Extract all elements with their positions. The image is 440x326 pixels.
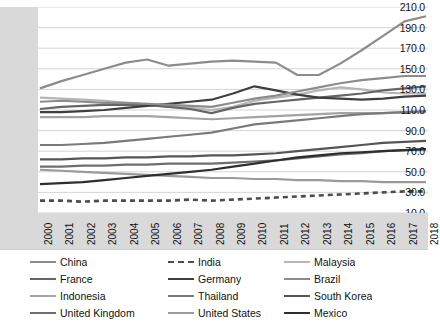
legend-line-swatch <box>168 261 194 263</box>
plot-canvas <box>38 7 428 213</box>
legend-line-swatch <box>284 312 310 314</box>
x-tick-label-host: 2000200120022003200420052006200720082009… <box>38 213 428 249</box>
y-tick-label: 110.0 <box>401 105 426 116</box>
legend-line-swatch <box>30 278 56 280</box>
legend-item-brazil[interactable]: Brazil <box>284 273 418 285</box>
y-tick-label: 50.0 <box>405 167 425 178</box>
legend-item-thailand[interactable]: Thailand <box>168 290 284 302</box>
legend-line-swatch <box>284 295 310 297</box>
legend-item-indonesia[interactable]: Indonesia <box>30 290 168 302</box>
legend-line-swatch <box>284 261 310 263</box>
y-tick-label: 150.0 <box>400 64 425 75</box>
legend-label: India <box>198 256 221 268</box>
legend-line-swatch <box>284 278 310 280</box>
x-tick-label: 2017 <box>409 223 419 245</box>
legend-label: United Kingdom <box>60 307 135 319</box>
chart-title-clipped <box>0 0 428 7</box>
legend-item-malaysia[interactable]: Malaysia <box>284 256 418 268</box>
legend-label: France <box>60 273 93 285</box>
legend-label: South Korea <box>314 290 372 302</box>
legend-item-france[interactable]: France <box>30 273 168 285</box>
x-tick-label: 2000 <box>44 223 54 245</box>
y-tick-label: 210.0 <box>400 2 425 13</box>
legend-item-united-states[interactable]: United States <box>168 307 284 319</box>
legend-entries: ChinaIndiaMalaysiaFranceGermanyBrazilInd… <box>30 253 424 321</box>
y-axis-labels <box>0 7 38 213</box>
y-tick-label: 190.0 <box>400 23 425 34</box>
legend-label: Malaysia <box>314 256 355 268</box>
chart-svg <box>38 7 428 213</box>
legend-item-mexico[interactable]: Mexico <box>284 307 418 319</box>
chart-legend: ChinaIndiaMalaysiaFranceGermanyBrazilInd… <box>0 249 428 326</box>
plot-area-wrapper: 210.0190.0170.0150.0130.0110.090.070.050… <box>0 7 428 213</box>
y-tick-label: 30.0 <box>405 187 425 198</box>
series-line-china <box>40 16 426 88</box>
y-tick-label: 70.0 <box>405 146 425 157</box>
y-tick-label: 90.0 <box>405 126 425 137</box>
legend-line-swatch <box>30 312 56 314</box>
x-tick-label: 2008 <box>216 223 226 245</box>
series-line-brazil <box>40 76 426 107</box>
series-line-india <box>40 191 426 201</box>
x-tick-label: 2015 <box>366 223 376 245</box>
x-tick-label: 2003 <box>108 223 118 245</box>
x-tick-label: 2007 <box>194 223 204 245</box>
legend-label: United States <box>198 307 261 319</box>
legend-label: China <box>60 256 87 268</box>
legend-label: Indonesia <box>60 290 106 302</box>
legend-label: Thailand <box>198 290 238 302</box>
legend-line-swatch <box>168 278 194 280</box>
series-lines <box>40 16 426 201</box>
x-tick-label: 2004 <box>130 223 140 245</box>
x-tick-label: 2016 <box>387 223 397 245</box>
legend-label: Brazil <box>314 273 340 285</box>
x-tick-label: 2013 <box>323 223 333 245</box>
legend-item-united-kingdom[interactable]: United Kingdom <box>30 307 168 319</box>
legend-line-swatch <box>30 295 56 297</box>
x-tick-label: 2010 <box>258 223 268 245</box>
x-tick-label: 2001 <box>65 223 75 245</box>
x-tick-label: 2002 <box>87 223 97 245</box>
legend-line-swatch <box>168 312 194 314</box>
y-tick-label: 170.0 <box>400 43 425 54</box>
x-tick-label: 2006 <box>173 223 183 245</box>
legend-item-germany[interactable]: Germany <box>168 273 284 285</box>
legend-line-swatch <box>30 261 56 263</box>
y-tick-label: 130.0 <box>400 84 425 95</box>
legend-item-south-korea[interactable]: South Korea <box>284 290 418 302</box>
legend-label: Germany <box>198 273 241 285</box>
x-tick-label: 2012 <box>301 223 311 245</box>
x-tick-label: 2018 <box>430 223 440 245</box>
legend-label: Mexico <box>314 307 347 319</box>
x-tick-label: 2011 <box>280 223 290 245</box>
x-tick-label: 2014 <box>344 223 354 245</box>
legend-item-india[interactable]: India <box>168 256 284 268</box>
legend-item-china[interactable]: China <box>30 256 168 268</box>
x-tick-label: 2005 <box>151 223 161 245</box>
x-tick-label: 2009 <box>237 223 247 245</box>
legend-line-swatch <box>168 295 194 297</box>
